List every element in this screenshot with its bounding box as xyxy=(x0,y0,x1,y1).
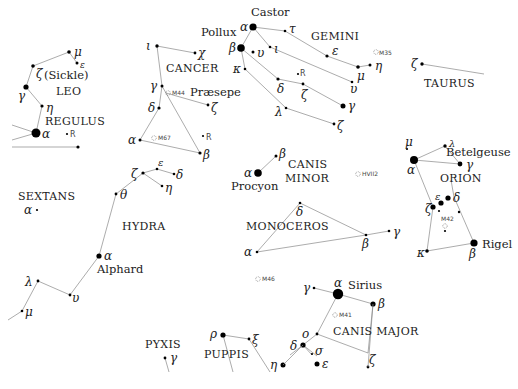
star-puppis-xi xyxy=(248,338,251,341)
star-cancer-beta xyxy=(198,151,201,154)
star-bellatrix xyxy=(458,162,463,167)
star-name-praesepe: Præsepe xyxy=(190,85,241,99)
star-orion-delta xyxy=(445,195,450,200)
label-gemini-zeta: ζ xyxy=(301,88,309,102)
label-puppis-rho: ρ xyxy=(209,327,217,341)
label-orion-alpha: α xyxy=(407,163,415,177)
star-monoceros-delta xyxy=(299,202,302,205)
label-gemini-delta: δ xyxy=(277,82,284,96)
label-hydra-theta: θ xyxy=(120,188,128,202)
label-orion-epsilon: ε xyxy=(435,191,440,202)
constellation-sextans: α SEXTANS xyxy=(18,190,75,217)
label-r-cancer: R xyxy=(206,133,212,142)
star-cancer-chi xyxy=(194,52,197,55)
star-sextans-alpha xyxy=(36,209,38,211)
constellation-leo: μ ε ζ γ η α (Sickle) LEO REGULUS R xyxy=(12,45,105,149)
star-gemini-epsilon xyxy=(325,54,328,57)
star-cancer-gamma xyxy=(161,85,164,88)
star-gemini-upsilon xyxy=(252,51,255,54)
star-leo-epsilon xyxy=(76,62,79,65)
label-cancer-beta: β xyxy=(202,148,210,162)
star-pyxis-gamma xyxy=(164,357,167,360)
label-gemini-epsilon: ε xyxy=(332,44,338,58)
star-chart: μ ε ζ γ η α (Sickle) LEO REGULUS R ι χ γ… xyxy=(0,0,518,389)
star-cancer-iota xyxy=(155,44,158,47)
label-canis-major-delta: δ xyxy=(290,339,297,353)
star-name-alphard: Alphard xyxy=(96,262,144,276)
star-canis-major-sigma xyxy=(311,353,313,355)
star-gemini-delta xyxy=(276,77,279,80)
label-hydra-zeta: ζ xyxy=(131,167,139,181)
constellation-name-orion: ORION xyxy=(440,172,482,185)
constellation-name-canis: CANIS xyxy=(288,158,327,171)
star-gemini-eta xyxy=(369,64,372,67)
label-sextans-alpha: α xyxy=(24,203,32,217)
label-gemini-upsilon: υ xyxy=(257,46,264,60)
star-orion-kappa xyxy=(425,249,429,253)
label-gemini-mu: μ xyxy=(357,69,365,83)
star-monoceros-gamma xyxy=(388,230,391,233)
star-orion-sigma xyxy=(438,210,440,212)
star-name-castor: Castor xyxy=(251,5,290,19)
star-gemini-gamma xyxy=(341,104,346,109)
star-gemini-lambda xyxy=(285,107,288,110)
star-name-sirius: Sirius xyxy=(348,278,382,292)
label-hvii2: HVII2 xyxy=(362,170,378,177)
label-orion-beta: β xyxy=(468,247,476,261)
star-hydra-eta xyxy=(161,185,164,188)
star-gemini-zeta xyxy=(302,83,305,86)
constellation-puppis: ρ ξ PUPPIS xyxy=(204,327,270,372)
label-orion-mu: μ xyxy=(405,135,413,149)
label-canis-major-alpha: α xyxy=(334,276,342,290)
label-pyxis-gamma: γ xyxy=(170,351,178,365)
star-monoceros-beta xyxy=(365,234,368,237)
constellation-hydra: ζ ε δ η θ α υ λ μ HYDRA Alphard xyxy=(8,157,183,320)
star-r-cancri xyxy=(202,135,204,137)
label-leo-alpha: α xyxy=(42,127,50,141)
label-monoceros-beta: β xyxy=(361,237,369,251)
star-name-rigel: Rigel xyxy=(482,237,513,251)
star-leo-zeta xyxy=(31,64,35,68)
label-cancer-alpha: α xyxy=(128,133,136,147)
label-puppis-eta: η xyxy=(270,358,278,372)
label-hydra-eta: η xyxy=(165,181,173,195)
nebula-m42-icon xyxy=(443,224,447,228)
label-gemini-alpha: α xyxy=(240,20,248,34)
star-regulus xyxy=(32,129,41,138)
constellation-pyxis: γ PYXIS xyxy=(145,338,181,372)
label-monoceros-gamma: γ xyxy=(393,225,401,239)
label-m41: M41 xyxy=(339,311,352,318)
label-monoceros-alpha: α xyxy=(244,245,252,259)
constellation-name-sextans: SEXTANS xyxy=(18,190,75,203)
label-m46: M46 xyxy=(262,275,275,282)
star-hydra-epsilon xyxy=(156,168,159,171)
cluster-m41-icon xyxy=(333,313,337,317)
label-cancer-iota: ι xyxy=(146,39,151,53)
constellation-name-minor: MINOR xyxy=(285,172,329,185)
label-leo-gamma: γ xyxy=(18,89,26,103)
star-hydra-upsilon xyxy=(69,294,72,297)
constellation-canis-major: γ α Sirius β M41 CANIS MAJOR ο δ σ ε ζ η xyxy=(270,276,419,372)
star-name-regulus: REGULUS xyxy=(45,115,105,128)
label-canis-major-omicron: ο xyxy=(302,327,309,341)
star-cancer-alpha xyxy=(139,139,142,142)
star-canis-major-omicron xyxy=(316,333,319,336)
star-orion-iota xyxy=(444,230,446,232)
star-name-procyon: Procyon xyxy=(231,179,279,193)
star-hydra-theta xyxy=(115,193,118,196)
constellation-name-puppis: PUPPIS xyxy=(204,348,249,361)
label-leo-eta: η xyxy=(46,101,54,115)
cluster-m35-icon xyxy=(374,50,379,55)
label-r-leo: R xyxy=(70,130,76,139)
label-canis-major-nu: γ xyxy=(303,281,311,295)
star-hydra-lambda xyxy=(37,280,40,283)
label-cancer-delta: δ xyxy=(148,101,155,115)
label-taurus-zeta: ζ xyxy=(411,57,419,71)
label-m44: M44 xyxy=(172,89,185,96)
star-leo-mu xyxy=(67,50,71,54)
label-hydra-lambda: λ xyxy=(24,275,33,289)
label-r-gemini: R xyxy=(300,69,306,78)
label-hydra-delta: δ xyxy=(176,168,183,182)
label-canis-major-beta: β xyxy=(377,297,385,311)
constellation-taurus: ζ TAURUS xyxy=(411,57,484,90)
